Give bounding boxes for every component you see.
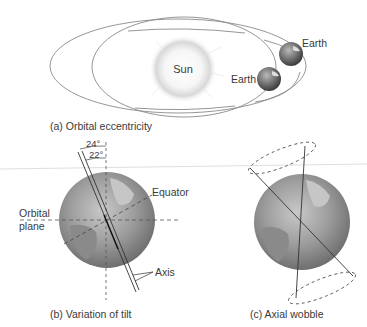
earth-icon-aphelion [279, 42, 303, 66]
wobble-cone-top [245, 136, 319, 180]
equator-label: Equator [152, 186, 189, 198]
panel-variation-of-tilt: 24° 22° Equator Orbital plane Axis (b) V… [19, 138, 189, 320]
earth-label-2: Earth [231, 73, 256, 85]
orbital-plane-label-line2: plane [19, 220, 45, 232]
caption-c: (c) Axial wobble [250, 308, 324, 320]
axis-label: Axis [155, 266, 175, 278]
angle-label-24: 24° [86, 138, 101, 149]
caption-a: (a) Orbital eccentricity [50, 120, 153, 132]
milankovitch-diagram: Sun Earth Earth (a) Orbital eccentricity [0, 0, 367, 327]
divider-line [0, 164, 367, 169]
sun-label: Sun [173, 63, 193, 75]
orbit-arc-bottom [135, 106, 235, 110]
panel-orbital-eccentricity: Sun Earth Earth (a) Orbital eccentricity [50, 17, 327, 132]
caption-b: (b) Variation of tilt [50, 308, 132, 320]
earth-icon-perihelion [257, 67, 281, 91]
orbit-arc-top [128, 29, 245, 33]
earth-label-1: Earth [302, 37, 327, 49]
orbital-plane-label-line1: Orbital [19, 207, 50, 219]
panel-axial-wobble: (c) Axial wobble [245, 136, 359, 320]
angle-label-22: 22° [89, 149, 104, 160]
